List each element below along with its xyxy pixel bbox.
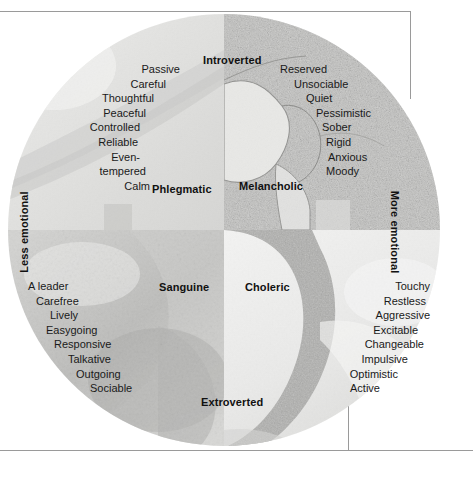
trait-word: Restless: [300, 294, 426, 309]
trait-word: Optimistic: [300, 367, 398, 382]
trait-word: Lively: [50, 308, 148, 323]
trait-word: Quiet: [306, 91, 410, 106]
trait-word: Anxious: [328, 150, 410, 165]
trait-word: Rigid: [326, 135, 410, 150]
trait-word: Passive: [20, 62, 180, 77]
trait-word: A leader: [28, 279, 148, 294]
trait-word: Carefree: [36, 294, 148, 309]
axis-label-less-emotional: Less emotional: [18, 187, 30, 277]
trait-word: Pessimistic: [316, 106, 410, 121]
trait-word: Unsociable: [294, 77, 410, 92]
trait-word: Careful: [20, 77, 166, 92]
trait-word: Reliable: [20, 135, 138, 150]
trait-word: Sober: [322, 120, 410, 135]
temperament-label-melancholic: Melancholic: [239, 180, 303, 192]
trait-word: Talkative: [68, 352, 148, 367]
trait-word: Outgoing: [76, 367, 148, 382]
trait-word: Reserved: [280, 62, 410, 77]
trait-word: Peaceful: [20, 106, 146, 121]
trait-word: tempered: [20, 164, 146, 179]
trait-word: Even-: [20, 150, 140, 165]
trait-word: Easygoing: [46, 323, 148, 338]
trait-word: Sociable: [90, 381, 148, 396]
temperament-label-choleric: Choleric: [245, 281, 290, 293]
trait-word: Excitable: [300, 323, 418, 338]
frame-rule-top: [0, 11, 411, 12]
trait-list-melancholic: ReservedUnsociableQuietPessimisticSoberR…: [280, 62, 410, 179]
eysenck-personality-circumplex: Phlegmatic Melancholic Sanguine Choleric…: [0, 0, 473, 480]
trait-list-choleric: TouchyRestlessAggressiveExcitableChangea…: [300, 279, 430, 396]
frame-rule-bottom-right-horizontal: [348, 450, 473, 451]
trait-list-phlegmatic: PassiveCarefulThoughtfulPeacefulControll…: [20, 62, 180, 193]
axis-label-more-emotional: More emotional: [389, 187, 401, 277]
axis-label-extroverted: Extroverted: [201, 396, 263, 408]
trait-word: Responsive: [54, 337, 148, 352]
trait-word: Active: [300, 381, 380, 396]
temperament-label-sanguine: Sanguine: [159, 281, 209, 293]
axis-label-introverted: Introverted: [203, 54, 262, 66]
trait-word: Aggressive: [300, 308, 430, 323]
trait-word: Calm: [20, 179, 150, 194]
trait-word: Changeable: [300, 337, 424, 352]
trait-word: Impulsive: [300, 352, 408, 367]
trait-word: Controlled: [20, 120, 140, 135]
trait-list-sanguine: A leaderCarefreeLivelyEasygoingResponsiv…: [28, 279, 148, 396]
trait-word: Moody: [326, 164, 410, 179]
trait-word: Thoughtful: [20, 91, 154, 106]
trait-word: Touchy: [300, 279, 430, 294]
